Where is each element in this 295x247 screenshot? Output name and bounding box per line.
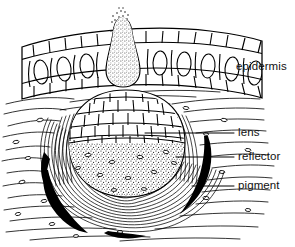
anatomy-figure: epidermis lens reflector pigment [0,0,295,247]
label-pigment: pigment [238,180,280,192]
label-epidermis: epidermis [236,61,287,73]
label-reflector: reflector [238,151,280,163]
eye-cross-section-diagram [0,0,295,247]
pigment-crescent-bottom [104,231,146,238]
label-lens: lens [238,127,260,139]
lens [64,86,190,148]
